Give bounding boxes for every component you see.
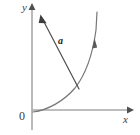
y-axis-arrowhead-icon [29, 3, 36, 10]
vector-a-arrowhead-icon [39, 15, 47, 24]
vector-a-shaft [43, 20, 79, 89]
y-axis-label: y [22, 2, 27, 13]
vector-diagram-figure: y x 0 a [0, 0, 140, 135]
curve-direction-arrowhead-icon [92, 39, 97, 49]
x-axis-label: x [123, 114, 128, 125]
vector-a-label: a [58, 36, 63, 46]
origin-label: 0 [19, 110, 25, 122]
x-axis-arrowhead-icon [127, 106, 134, 113]
